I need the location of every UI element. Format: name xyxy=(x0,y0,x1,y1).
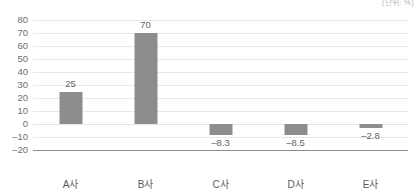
y-tick-label: –10 xyxy=(0,132,28,142)
chart-screenshot: (단위: %) 80706050403020100–10–20 25A사70B사… xyxy=(0,0,420,196)
x-tick-label: A사 xyxy=(63,180,79,190)
y-tick-label: 20 xyxy=(0,93,28,103)
bar-slot: –8.3C사 xyxy=(183,0,258,196)
bars-group: 25A사70B사–8.3C사–8.5D사–2.8E사 xyxy=(33,0,408,196)
x-tick-label: C사 xyxy=(212,180,228,190)
bar xyxy=(359,124,382,128)
bar-value-label: –8.5 xyxy=(286,138,305,148)
y-tick-label: 50 xyxy=(0,54,28,64)
y-tick-label: 0 xyxy=(0,119,28,129)
bar-value-label: –8.3 xyxy=(211,138,230,148)
bar-value-label: 70 xyxy=(140,20,151,30)
x-tick-label: D사 xyxy=(287,180,303,190)
x-tick-label: B사 xyxy=(138,180,154,190)
bar-slot: 70B사 xyxy=(108,0,183,196)
y-tick-label: 10 xyxy=(0,106,28,116)
bar-slot: –2.8E사 xyxy=(333,0,408,196)
x-tick-label: E사 xyxy=(363,180,379,190)
bar-chart-plot-area: 80706050403020100–10–20 25A사70B사–8.3C사–8… xyxy=(0,0,420,196)
y-tick-label: 40 xyxy=(0,67,28,77)
y-tick-label: 80 xyxy=(0,15,28,25)
y-tick-label: –20 xyxy=(0,145,28,155)
y-tick-label: 70 xyxy=(0,28,28,38)
bar xyxy=(59,92,82,125)
bar-value-label: –2.8 xyxy=(361,131,380,141)
bar-slot: 25A사 xyxy=(33,0,108,196)
bar-slot: –8.5D사 xyxy=(258,0,333,196)
y-tick-label: 30 xyxy=(0,80,28,90)
bar xyxy=(284,124,307,135)
y-tick-label: 60 xyxy=(0,41,28,51)
bar xyxy=(134,33,157,124)
bar-value-label: 25 xyxy=(65,79,76,89)
bar xyxy=(209,124,232,135)
